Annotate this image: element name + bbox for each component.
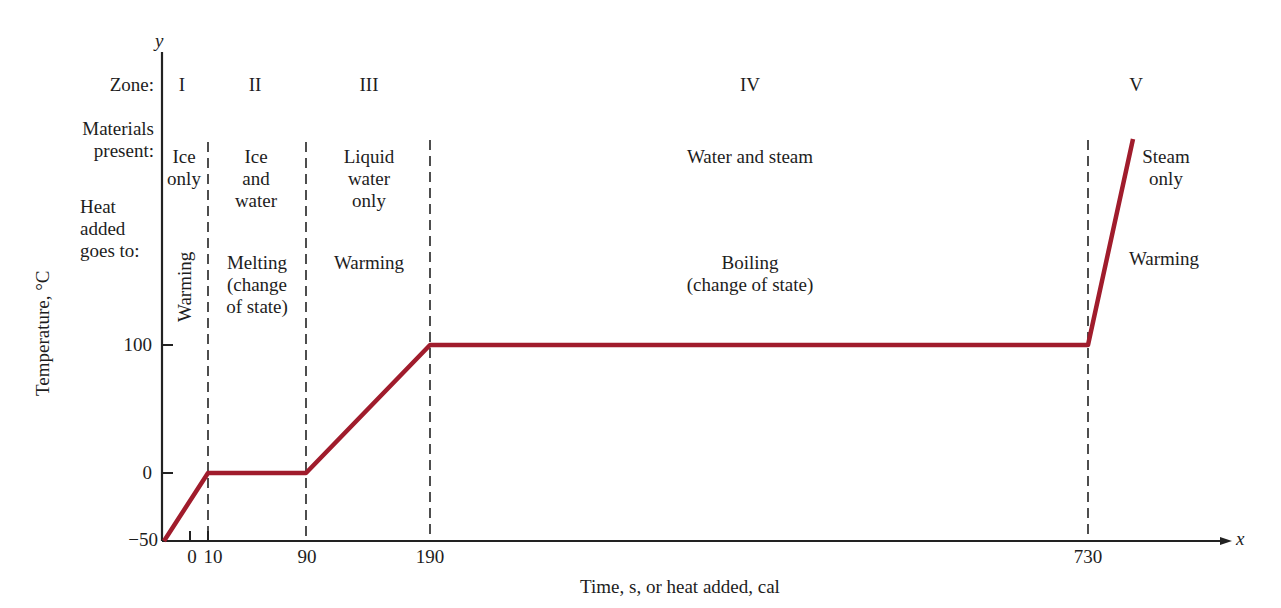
y-axis-letter: y: [155, 30, 163, 52]
x-tick-label-90: 90: [298, 546, 317, 568]
row-label-materials: Materials present:: [40, 118, 154, 162]
y-tick-label-100: 100: [100, 334, 152, 356]
heating-curve-line: [164, 139, 1133, 541]
zone-boundaries: [208, 140, 1088, 541]
zone-id-V: V: [1129, 74, 1143, 96]
zone-IV-heat: Boiling (change of state): [687, 252, 814, 296]
row-label-heat: Heat added goes to:: [80, 196, 140, 262]
x-tick-label-0: 0: [187, 546, 197, 568]
y-axis-title: Temperature, °C: [32, 271, 54, 397]
zone-IV-materials: Water and steam: [687, 146, 813, 168]
x-axis-letter: x: [1236, 528, 1244, 550]
zone-id-IV: IV: [740, 74, 760, 96]
x-tick-label-10: 10: [204, 546, 223, 568]
zone-id-I: I: [179, 74, 185, 96]
row-label-zone: Zone:: [60, 74, 154, 96]
x-axis-arrow-icon: [1220, 537, 1232, 545]
zone-II-heat: Melting (change of state): [226, 252, 288, 318]
zone-II-materials: Ice and water: [235, 146, 277, 212]
zone-V-materials: Steam only: [1142, 146, 1190, 190]
zone-III-materials: Liquid water only: [344, 146, 395, 212]
x-tick-label-190: 190: [416, 546, 445, 568]
zone-id-II: II: [249, 74, 262, 96]
x-axis-title: Time, s, or heat added, cal: [580, 576, 780, 598]
y-tick-label-minus50: −50: [100, 529, 158, 551]
x-tick-label-730: 730: [1074, 546, 1103, 568]
zone-id-III: III: [360, 74, 379, 96]
zone-V-heat: Warming: [1129, 248, 1199, 270]
zone-I-heat: Warming: [174, 252, 196, 322]
zone-I-materials: Ice only: [167, 146, 201, 190]
y-tick-label-0: 0: [100, 462, 152, 484]
zone-III-heat: Warming: [334, 252, 404, 274]
